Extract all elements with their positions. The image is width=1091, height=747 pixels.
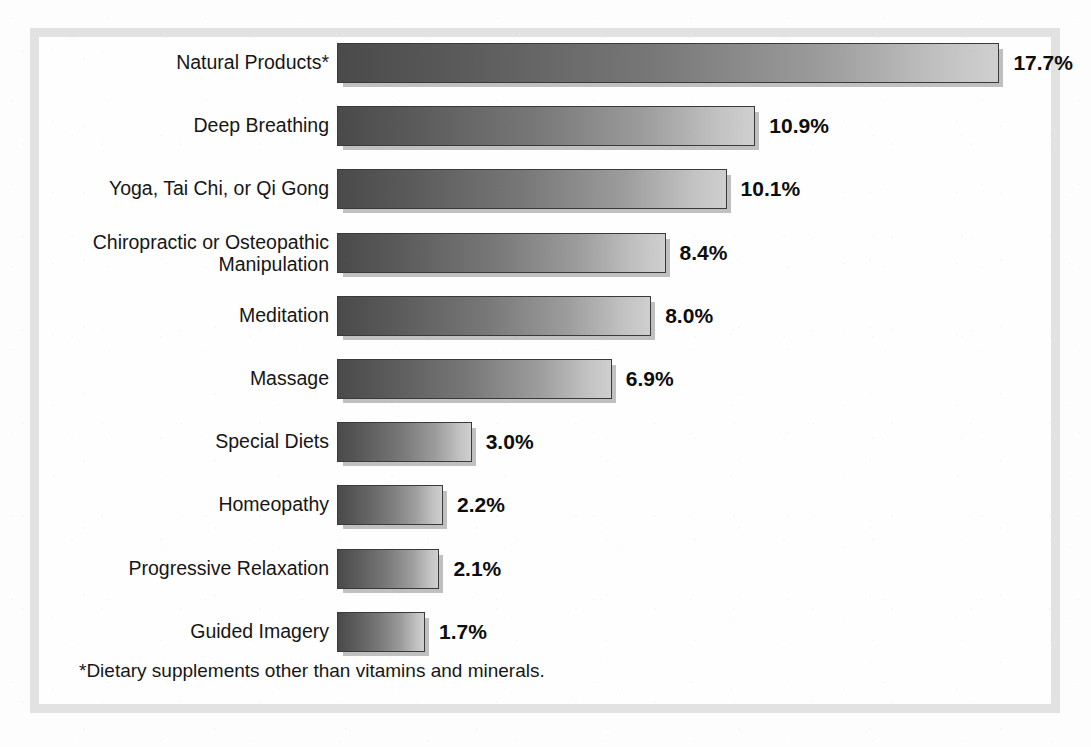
bar-row: Guided Imagery1.7% bbox=[39, 612, 1051, 654]
bar-value-label: 10.1% bbox=[741, 177, 801, 201]
bar-container[interactable] bbox=[337, 549, 439, 589]
bar-category-label: Homeopathy bbox=[0, 493, 329, 515]
page-background: Natural Products*17.7%Deep Breathing10.9… bbox=[0, 0, 1091, 747]
bar-container[interactable] bbox=[337, 43, 999, 83]
bar[interactable] bbox=[337, 233, 666, 273]
bar-row: Chiropractic or Osteopathic Manipulation… bbox=[39, 233, 1051, 275]
bar-value-label: 17.7% bbox=[1013, 51, 1073, 75]
bar-value-label: 2.1% bbox=[453, 557, 501, 581]
bar-category-label: Massage bbox=[0, 367, 329, 389]
bar-container[interactable] bbox=[337, 612, 425, 652]
bar[interactable] bbox=[337, 43, 999, 83]
bar-chart: Natural Products*17.7%Deep Breathing10.9… bbox=[39, 37, 1051, 704]
bar-container[interactable] bbox=[337, 485, 443, 525]
bar-row: Homeopathy2.2% bbox=[39, 485, 1051, 527]
bar-value-label: 1.7% bbox=[439, 620, 487, 644]
bar-container[interactable] bbox=[337, 233, 666, 273]
bar-value-label: 2.2% bbox=[457, 493, 505, 517]
bar-container[interactable] bbox=[337, 106, 755, 146]
bar[interactable] bbox=[337, 422, 472, 462]
chart-footnote: *Dietary supplements other than vitamins… bbox=[79, 660, 545, 682]
bar[interactable] bbox=[337, 359, 612, 399]
bar-category-label: Natural Products* bbox=[0, 51, 329, 73]
chart-frame: Natural Products*17.7%Deep Breathing10.9… bbox=[30, 28, 1060, 713]
bar-category-label: Deep Breathing bbox=[0, 114, 329, 136]
bar-category-label: Chiropractic or Osteopathic Manipulation bbox=[0, 231, 329, 275]
bar-category-label: Meditation bbox=[0, 304, 329, 326]
bar-container[interactable] bbox=[337, 169, 727, 209]
bar-container[interactable] bbox=[337, 359, 612, 399]
bar-row: Deep Breathing10.9% bbox=[39, 106, 1051, 148]
bar[interactable] bbox=[337, 612, 425, 652]
bar-container[interactable] bbox=[337, 296, 651, 336]
bar-value-label: 6.9% bbox=[626, 367, 674, 391]
bar-value-label: 8.0% bbox=[665, 304, 713, 328]
bar[interactable] bbox=[337, 169, 727, 209]
bar-row: Progressive Relaxation2.1% bbox=[39, 549, 1051, 591]
bar-container[interactable] bbox=[337, 422, 472, 462]
bar-category-label: Guided Imagery bbox=[0, 620, 329, 642]
bar[interactable] bbox=[337, 485, 443, 525]
bar[interactable] bbox=[337, 549, 439, 589]
bar-category-label: Special Diets bbox=[0, 430, 329, 452]
bar[interactable] bbox=[337, 296, 651, 336]
bar-row: Natural Products*17.7% bbox=[39, 43, 1051, 85]
bar-row: Yoga, Tai Chi, or Qi Gong10.1% bbox=[39, 169, 1051, 211]
bar-value-label: 8.4% bbox=[680, 241, 728, 265]
bar-value-label: 10.9% bbox=[769, 114, 829, 138]
bar-row: Meditation8.0% bbox=[39, 296, 1051, 338]
bar-row: Massage6.9% bbox=[39, 359, 1051, 401]
bar-row: Special Diets3.0% bbox=[39, 422, 1051, 464]
bar-value-label: 3.0% bbox=[486, 430, 534, 454]
bar-category-label: Yoga, Tai Chi, or Qi Gong bbox=[0, 177, 329, 199]
bar[interactable] bbox=[337, 106, 755, 146]
bar-category-label: Progressive Relaxation bbox=[0, 557, 329, 579]
